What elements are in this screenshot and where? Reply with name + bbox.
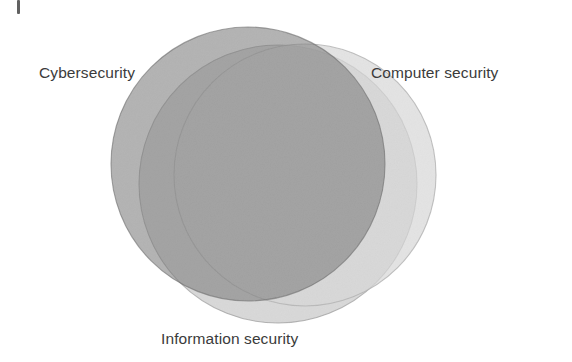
venn-diagram-figure: Cybersecurity Computer security Informat…: [0, 0, 572, 362]
venn-label-cybersecurity: Cybersecurity: [39, 64, 135, 82]
venn-label-computer-security: Computer security: [371, 64, 498, 82]
venn-label-information-security: Information security: [161, 330, 298, 348]
venn-circle-cybersecurity: [111, 27, 385, 301]
venn-circles-canvas: [0, 0, 572, 362]
